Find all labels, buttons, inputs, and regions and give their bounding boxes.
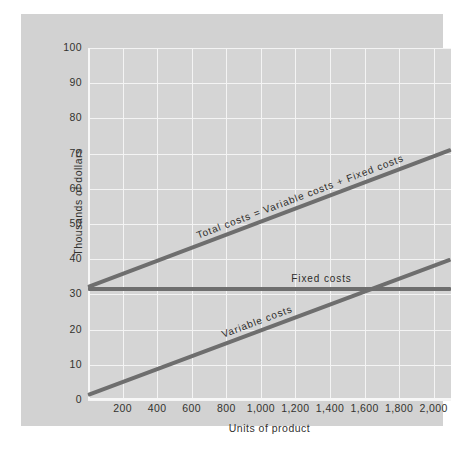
chart-panel: Total costs = Variable costs + Fixed cos… — [21, 14, 443, 426]
gridline-horizontal — [88, 400, 451, 401]
gridline-horizontal — [88, 259, 451, 260]
x-tick-label: 200 — [113, 402, 132, 414]
gridline-horizontal — [88, 294, 451, 295]
x-tick-label: 600 — [182, 402, 201, 414]
plot-area: Total costs = Variable costs + Fixed cos… — [88, 48, 451, 400]
gridline-horizontal — [88, 330, 451, 331]
series-line — [88, 287, 451, 291]
x-tick-label: 1,000 — [247, 402, 275, 414]
gridline-horizontal — [88, 83, 451, 84]
x-tick-label: 1,800 — [385, 402, 413, 414]
y-axis-line — [88, 48, 90, 400]
x-tick-label: 800 — [217, 402, 236, 414]
series-line — [87, 257, 451, 396]
x-tick-label: 2,000 — [420, 402, 448, 414]
y-axis-title: Thousands of dollars — [72, 132, 84, 272]
gridline-horizontal — [88, 48, 451, 49]
gridline-horizontal — [88, 189, 451, 190]
gridline-horizontal — [88, 365, 451, 366]
y-axis-title-wrapper: Thousands of dollars — [51, 48, 65, 400]
x-axis-ticks: 2004006008001,0001,2001,4001,6001,8002,0… — [88, 402, 458, 422]
x-axis-line — [88, 398, 451, 400]
gridline-horizontal — [88, 224, 451, 225]
x-tick-label: 1,400 — [316, 402, 344, 414]
series-line — [87, 148, 451, 289]
chart-figure: Total costs = Variable costs + Fixed cos… — [0, 0, 464, 450]
gridline-horizontal — [88, 118, 451, 119]
x-tick-label: 400 — [148, 402, 167, 414]
x-axis-title: Units of product — [88, 422, 451, 434]
series-label: Fixed costs — [291, 273, 351, 284]
x-tick-label: 1,200 — [281, 402, 309, 414]
x-tick-label: 1,600 — [350, 402, 378, 414]
